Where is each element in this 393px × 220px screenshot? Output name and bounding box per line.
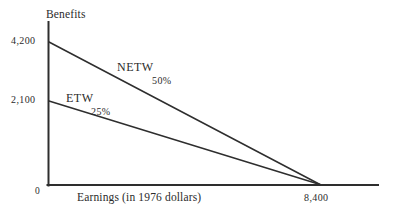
chart-canvas [0,0,393,220]
y-axis-tick-label-2100: 2,100 [11,95,36,105]
y-axis-title: Benefits [46,9,86,21]
etw-rate-label: 25% [91,107,111,117]
x-axis-title: Earnings (in 1976 dollars) [77,192,201,204]
origin-label: 0 [35,187,40,197]
y-axis-tick-label-4200: 4,200 [11,36,36,46]
benefits-earnings-figure: Benefits 4,200 2,100 0 Earnings (in 1976… [0,0,393,220]
x-axis-tick-label-8400: 8,400 [304,193,329,203]
netw-rate-label: 50% [152,76,172,86]
netw-series-label: NETW [117,61,154,73]
etw-series-label: ETW [66,92,94,104]
